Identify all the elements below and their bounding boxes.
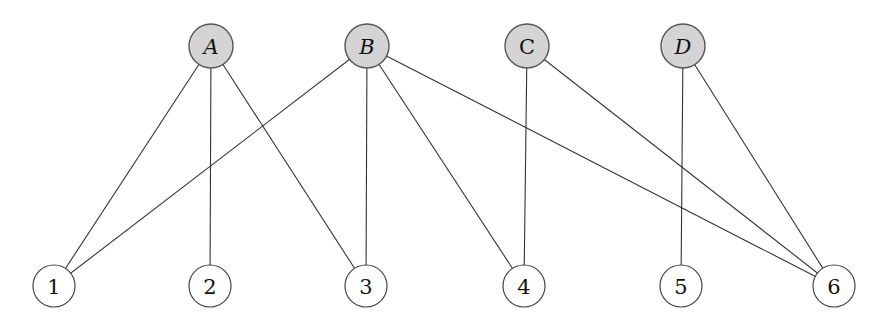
bottom-nodes-layer: 1 2 3 4 5 6 <box>33 265 855 307</box>
node-5: 5 <box>660 265 702 307</box>
node-label: 4 <box>517 275 530 299</box>
edge-a-3 <box>211 46 366 286</box>
edge-b-4 <box>367 46 524 286</box>
node-b: B <box>345 24 389 68</box>
node-c: C <box>505 24 549 68</box>
node-2: 2 <box>189 265 231 307</box>
node-label: A <box>201 35 218 59</box>
node-label: C <box>519 35 535 59</box>
edge-b-3 <box>366 46 367 286</box>
node-label: D <box>674 35 692 59</box>
node-6: 6 <box>813 265 855 307</box>
node-d: D <box>661 24 705 68</box>
edges-layer <box>54 46 834 286</box>
node-label: 5 <box>674 275 687 299</box>
top-nodes-layer: A B C D <box>189 24 705 68</box>
edge-d-6 <box>683 46 834 286</box>
node-4: 4 <box>503 265 545 307</box>
node-label: 6 <box>827 275 840 299</box>
edge-c-4 <box>524 46 527 286</box>
bipartite-graph: A B C D 1 2 3 4 5 6 <box>0 0 890 327</box>
node-a: A <box>189 24 233 68</box>
node-label: 3 <box>359 275 372 299</box>
edge-b-6 <box>367 46 834 286</box>
node-label: 2 <box>203 275 216 299</box>
edge-a-1 <box>54 46 211 286</box>
edge-c-6 <box>527 46 834 286</box>
node-label: B <box>358 35 374 59</box>
node-3: 3 <box>345 265 387 307</box>
node-label: 1 <box>47 275 60 299</box>
node-1: 1 <box>33 265 75 307</box>
